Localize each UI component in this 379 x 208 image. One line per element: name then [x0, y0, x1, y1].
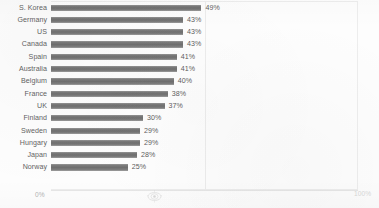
bar-row: Canada43%: [0, 38, 379, 50]
bar-value-label: 41%: [181, 51, 195, 63]
x-axis-baseline: [51, 190, 358, 191]
bar-value-label: 43%: [187, 26, 201, 38]
bar-value-label: 40%: [178, 75, 192, 87]
bar-fill: [51, 5, 201, 11]
bar-category-label: Finland: [0, 112, 47, 124]
bar-fill: [51, 78, 174, 84]
bar-category-label: Spain: [0, 51, 47, 63]
bar-category-label: UK: [0, 100, 47, 112]
bar-chart-figure: S. Korea49%Germany43%US43%Canada43%Spain…: [0, 0, 379, 208]
bar-fill: [51, 54, 177, 60]
bar-fill: [51, 91, 168, 97]
bar: [51, 140, 140, 146]
bar-category-label: Sweden: [0, 125, 47, 137]
bar: [51, 115, 143, 121]
bar-row: Australia41%: [0, 63, 379, 75]
bar-row: Norway25%: [0, 161, 379, 173]
bar-row: Japan28%: [0, 149, 379, 161]
bar-value-label: 28%: [141, 149, 155, 161]
bar: [51, 54, 177, 60]
bar-fill: [51, 66, 177, 72]
bar: [51, 66, 177, 72]
bar-value-label: 38%: [172, 88, 186, 100]
bar-row: Germany43%: [0, 14, 379, 26]
bar-value-label: 25%: [132, 161, 146, 173]
bar-value-label: 30%: [147, 112, 161, 124]
bar-row: US43%: [0, 26, 379, 38]
bar-row: Sweden29%: [0, 125, 379, 137]
bar-value-label: 43%: [187, 14, 201, 26]
bar-value-label: 37%: [169, 100, 183, 112]
bar-category-label: Japan: [0, 149, 47, 161]
bar-fill: [51, 152, 137, 158]
bar-fill: [51, 103, 165, 109]
bar-fill: [51, 29, 183, 35]
x-axis-tick-max: 100%: [354, 190, 371, 197]
bar: [51, 5, 201, 11]
bar: [51, 152, 137, 158]
bar-value-label: 43%: [187, 38, 201, 50]
bar-row: France38%: [0, 88, 379, 100]
bar-category-label: Germany: [0, 14, 47, 26]
bar-row: Belgium40%: [0, 75, 379, 87]
bar-row: Hungary29%: [0, 137, 379, 149]
bar: [51, 17, 183, 23]
bar-fill: [51, 164, 128, 170]
bar-category-label: Hungary: [0, 137, 47, 149]
bar-fill: [51, 128, 140, 134]
bar-fill: [51, 41, 183, 47]
bar-category-label: Canada: [0, 38, 47, 50]
bar: [51, 78, 174, 84]
bar-fill: [51, 115, 143, 121]
bar-category-label: S. Korea: [0, 2, 47, 14]
bar: [51, 91, 168, 97]
bar-category-label: Australia: [0, 63, 47, 75]
bar-row: S. Korea49%: [0, 2, 379, 14]
bar-fill: [51, 140, 140, 146]
bar-category-label: US: [0, 26, 47, 38]
bar-value-label: 29%: [144, 125, 158, 137]
bar-row: UK37%: [0, 100, 379, 112]
page-emblem-icon: [147, 189, 162, 202]
bar-category-label: France: [0, 88, 47, 100]
bar-value-label: 41%: [181, 63, 195, 75]
bar-category-label: Norway: [0, 161, 47, 173]
bar-fill: [51, 17, 183, 23]
bar: [51, 103, 165, 109]
bar-row: Spain41%: [0, 51, 379, 63]
bars-layer: S. Korea49%Germany43%US43%Canada43%Spain…: [0, 0, 379, 190]
bar-value-label: 29%: [144, 137, 158, 149]
bar: [51, 164, 128, 170]
bar: [51, 29, 183, 35]
bar-value-label: 49%: [205, 2, 219, 14]
bar-row: Finland30%: [0, 112, 379, 124]
bar: [51, 41, 183, 47]
x-axis-tick-min: 0%: [35, 191, 45, 198]
bar: [51, 128, 140, 134]
bar-category-label: Belgium: [0, 75, 47, 87]
